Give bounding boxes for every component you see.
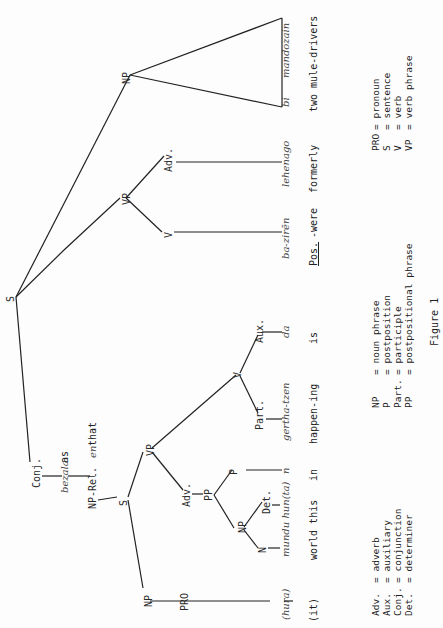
node-v-sub: V [232,372,243,378]
tree-edges [16,18,293,601]
node-adv-sub: Adv. [181,483,192,507]
edge-pp-np [214,495,234,528]
gloss-happen-ing: happen-ing [308,384,319,444]
node-np-subj: NP [143,595,154,607]
word-bazireen: ba-zirēn [280,218,291,259]
legend-abbr: Det. [403,593,414,616]
tree-nodes: S NP VP Adv. V Conj. NP-Rel. S VP Adv. P… [5,72,272,611]
legend-meaning: = verb phrase [403,55,414,130]
gloss-in: in [308,469,319,481]
gloss-pos: Pos. [308,242,319,266]
figure-caption: Figure 1 [429,298,440,346]
syntax-tree-figure: S NP VP Adv. V Conj. NP-Rel. S VP Adv. P… [0,0,443,628]
legend-meaning: = postposition [381,295,392,375]
edge-rel-s [98,497,117,500]
node-np-object: NP [121,72,132,84]
legend-abbr: VP [403,139,414,151]
edge-vpsub-v [152,375,236,448]
node-np-rel: NP-Rel. [87,467,98,509]
word-da: da [280,326,291,338]
node-n: N [257,547,268,553]
tree-canvas: S NP VP Adv. V Conj. NP-Rel. S VP Adv. P… [0,0,443,628]
node-pp: PP [203,489,214,501]
node-conj: Conj. [31,458,42,488]
legend-abbr: Part. [392,379,403,408]
edge-s-conj [16,297,30,462]
word-mandozain: mandozain [280,23,291,78]
legend-meaning: = verb [392,95,403,130]
gloss-were: -were [308,208,319,238]
legend-abbr: V [392,145,403,151]
legend-meaning: = conjunction [392,509,403,583]
node-v-main: V [163,232,174,238]
word-gerthatzen: gertha-tzen [280,382,291,441]
legend-meaning: = postpositional phrase [403,243,414,375]
legend-meaning: = sentence [381,73,392,130]
word-bi: bi [280,97,291,107]
gloss-formerly: formerly [308,145,319,193]
gloss-it: (it) [308,598,319,622]
legend-meaning: = auxiliary [381,520,392,583]
gloss-two-mule-drivers: two mule-drivers [308,16,319,112]
legend-meaning: = pronoun [370,79,381,130]
node-pro: PRO [179,593,190,611]
gloss-is: is [308,332,319,344]
legend-meaning: = participle [392,306,403,375]
legend-abbr: PRO [370,134,381,151]
word-en: en [87,446,98,458]
legend-abbr: PP [403,396,414,408]
legend-meaning: = adverb [370,537,381,583]
edge-s-vp [64,198,120,250]
node-aux: Aux. [254,319,265,343]
legend-meaning: = determiner [403,514,414,583]
edge-s-vp-part1 [16,250,64,297]
edge-np-triangle-top [130,18,282,75]
word-mundu-hunta: mundu hun(ta) [280,481,291,557]
edge-ssub-np [128,500,143,588]
gloss-as: as [59,451,70,463]
legend-abbr: Adv. [370,593,381,616]
node-det: Det. [261,490,272,514]
edge-vpsub-adv [152,452,183,490]
word-lehenago: lehenago [280,141,291,187]
word-n: n [280,468,291,474]
legend-abbr: S [381,145,392,151]
node-s-root: S [5,296,16,302]
legend: Adv. = adverb Aux. = auxiliary Conj. = c… [370,55,414,616]
node-vp-main: VP [121,193,132,205]
node-part: Part. [254,400,265,430]
gloss-world-this: world this [308,500,319,560]
gloss-that: that [87,422,98,446]
legend-abbr: Aux. [381,593,392,616]
edge-vp-adv [126,156,164,198]
legend-meaning: = noun phrase [370,300,381,375]
legend-abbr: NP [370,396,381,408]
edge-ssub-vp [128,452,143,497]
edge-np-triangle-bottom [130,75,282,107]
word-bezala: bezala [59,460,70,493]
node-p: P [228,469,239,475]
node-vp-sub: VP [145,444,156,456]
node-s-sub: S [118,500,129,506]
node-adv-main: Adv. [163,148,174,172]
node-np-pp: NP [237,521,248,533]
edge-s-np [16,75,130,297]
word-hura: (hura) [280,588,291,620]
legend-abbr: P [381,402,392,408]
legend-abbr: Conj. [392,587,403,616]
